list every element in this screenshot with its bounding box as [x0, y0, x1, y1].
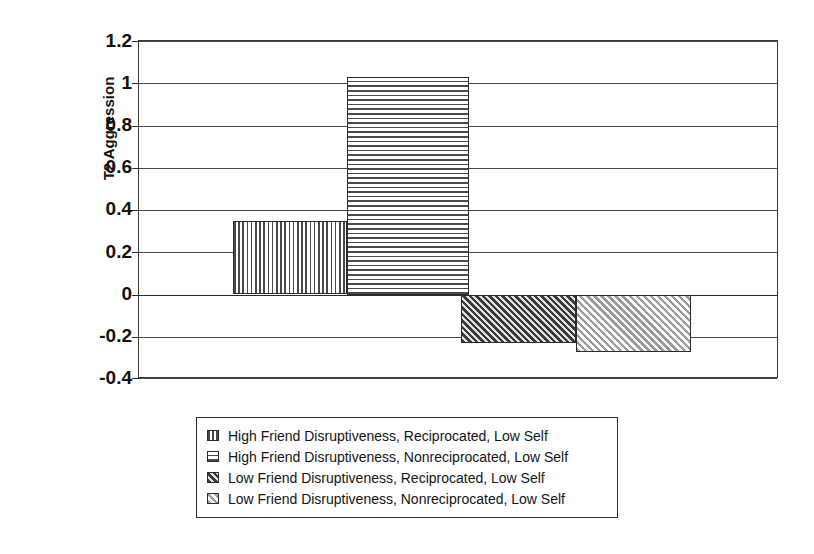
y-tick-label: 1.2: [62, 31, 132, 50]
horizontal-hatch-swatch-icon: [207, 451, 219, 462]
y-axis-tick-labels: 1.2 1 0.8 0.6 0.4 0.2 0 -0.2 -0.4: [58, 40, 132, 378]
legend-item: Low Friend Disruptiveness, Reciprocated,…: [207, 467, 607, 488]
bar-low-disruptiveness-nonreciprocated: [576, 295, 691, 352]
chart-figure: T2 Aggression 1.2 1 0.8 0.6 0.4 0.2 0 -0…: [0, 0, 814, 554]
y-tick-label: 0: [62, 284, 132, 303]
plot-area: [138, 40, 778, 378]
light-diagonal-hatch-swatch-icon: [207, 493, 219, 504]
y-tick-label: 1: [62, 73, 132, 92]
y-tick-label: -0.4: [62, 368, 132, 387]
y-tick-label: 0.2: [62, 242, 132, 261]
legend-item-label: Low Friend Disruptiveness, Nonreciprocat…: [228, 492, 565, 506]
bar-high-disruptiveness-nonreciprocated: [347, 77, 469, 295]
legend-item-label: High Friend Disruptiveness, Reciprocated…: [228, 429, 548, 443]
legend-item: High Friend Disruptiveness, Reciprocated…: [207, 425, 607, 446]
y-tickmark: [132, 126, 139, 127]
y-tickmark: [132, 337, 139, 338]
y-tickmark: [132, 168, 139, 169]
y-tickmark: [132, 83, 139, 84]
y-tick-label: 0.6: [62, 157, 132, 176]
vertical-hatch-swatch-icon: [207, 430, 219, 441]
legend-item-label: Low Friend Disruptiveness, Reciprocated,…: [228, 471, 545, 485]
dense-diagonal-hatch-swatch-icon: [207, 472, 219, 483]
y-tick-label: 0.8: [62, 115, 132, 134]
y-tick-label: 0.4: [62, 199, 132, 218]
y-tickmark: [132, 252, 139, 253]
y-tickmark: [132, 295, 139, 296]
y-tickmark: [132, 41, 139, 42]
legend-item-label: High Friend Disruptiveness, Nonreciproca…: [228, 450, 568, 464]
y-tickmark: [132, 378, 139, 379]
y-tick-label: -0.2: [62, 326, 132, 345]
y-tickmark: [132, 210, 139, 211]
legend-item: Low Friend Disruptiveness, Nonreciprocat…: [207, 488, 607, 509]
bar-low-disruptiveness-reciprocated: [461, 295, 576, 344]
bar-high-disruptiveness-reciprocated: [233, 221, 347, 295]
legend-item: High Friend Disruptiveness, Nonreciproca…: [207, 446, 607, 467]
gridline-1.2: [139, 41, 777, 42]
gridline--0.4: [139, 378, 777, 379]
chart-legend: High Friend Disruptiveness, Reciprocated…: [196, 417, 618, 518]
